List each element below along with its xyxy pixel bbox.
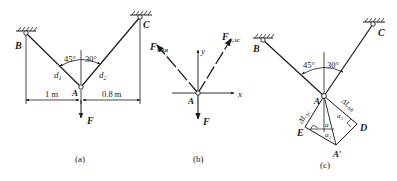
label-b: B: [14, 40, 22, 51]
panel-a: B C A 45° 30° d1 d2 1 m 0.8 m F (a): [14, 11, 152, 164]
angle-45-c: 45°: [303, 60, 315, 70]
caption-a: (a): [75, 154, 85, 164]
bar-ac: [81, 17, 140, 87]
pin-a-icon-c: [322, 94, 327, 99]
label-c: C: [143, 19, 150, 30]
label-y-axis: y: [200, 46, 205, 56]
pin-b-icon: [24, 31, 28, 35]
caption-b: (b): [193, 154, 204, 164]
label-force-nac: FN,AC: [221, 31, 241, 43]
label-a-b: A: [187, 96, 194, 106]
label-d1: d1: [54, 70, 62, 81]
pin-a-icon-b: [196, 91, 200, 95]
angle-30: 30°: [85, 54, 97, 64]
label-alpha1: α1: [337, 112, 343, 121]
label-a-c: A: [313, 96, 320, 106]
label-alpha: α: [325, 121, 329, 129]
dimension-right-label: 0.8 m: [102, 89, 122, 99]
pin-c-icon-c: [371, 22, 375, 26]
pin-b-icon-c: [261, 38, 265, 42]
angle-45: 45°: [64, 54, 76, 64]
label-b-c: B: [252, 43, 260, 54]
label-force-f: F: [86, 115, 94, 126]
panel-c: B C A 45° 30° ΔLAC ΔLAB α α1 α2 E D A′ (…: [252, 18, 385, 170]
support-c-icon: [130, 11, 152, 15]
caption-c: (c): [320, 160, 330, 170]
label-alpha2: α2: [325, 131, 332, 140]
pin-a-icon: [79, 85, 83, 89]
label-force-f-b: F: [202, 116, 210, 127]
angle-30-c: 30°: [327, 60, 339, 70]
pin-c-icon: [138, 15, 142, 19]
label-delta-l-ac: ΔLAC: [296, 107, 313, 126]
label-d2: d2: [99, 70, 107, 81]
dimension-left-label: 1 m: [45, 89, 58, 99]
label-c-c: C: [378, 27, 385, 38]
label-e: E: [296, 127, 304, 138]
support-c-icon-c: [363, 18, 385, 22]
label-d: D: [359, 122, 367, 133]
label-a: A: [71, 88, 78, 98]
label-x-axis: x: [237, 89, 242, 99]
panel-b: FN,AB FN,AC y x A F (b): [149, 31, 242, 164]
truss-diagram: B C A 45° 30° d1 d2 1 m 0.8 m F (a) FN,A…: [0, 0, 397, 181]
label-a-prime: A′: [332, 149, 342, 159]
